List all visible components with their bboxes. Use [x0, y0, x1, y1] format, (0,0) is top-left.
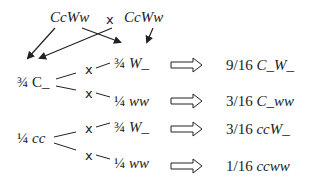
- result-2: 3/16 C_ww: [226, 94, 294, 109]
- implies-arrow-3: [171, 122, 202, 136]
- implies-arrow-1: [171, 58, 202, 72]
- branch-fraction: ¼: [17, 130, 28, 146]
- branch-genotype: C_: [32, 74, 50, 90]
- result-genotype: ccW_: [256, 121, 289, 137]
- result-4: 1/16 ccww: [226, 159, 290, 174]
- implies-arrow-2: [171, 94, 202, 108]
- sub-cross-symbol-1: x: [85, 63, 93, 76]
- sub-cross-symbol-4: x: [85, 149, 93, 162]
- result-ratio: 3/16: [226, 93, 253, 109]
- sub-branch-fraction: ¾: [114, 119, 125, 135]
- implies-arrow-4: [171, 159, 202, 173]
- branch-c-dominant: ¾ C_: [17, 75, 50, 90]
- result-genotype: C_ww: [256, 93, 294, 109]
- sub-branch-1: ¾ W_: [114, 56, 149, 71]
- result-3: 3/16 ccW_: [226, 122, 290, 137]
- sub-branch-4: ¼ ww: [114, 156, 149, 171]
- arrow-right-parent-to-W: [147, 28, 153, 42]
- sub-branch-fraction: ¼: [114, 155, 125, 171]
- sub-branch-genotype: ww: [129, 155, 149, 171]
- sub-branch-genotype: ww: [129, 93, 149, 109]
- result-ratio: 3/16: [226, 121, 253, 137]
- parent-cross-symbol: x: [106, 13, 114, 26]
- sub-branch-genotype: W_: [129, 119, 149, 135]
- result-genotype: ccww: [256, 158, 289, 174]
- dihybrid-cross-diagram: CcWw x CcWw ¾ C_ ¼ cc x x x x ¾ W_ ¼ ww …: [0, 0, 309, 195]
- branch-genotype: cc: [32, 130, 45, 146]
- sub-cross-symbol-3: x: [85, 122, 93, 135]
- arrow-left-parent-to-W: [82, 28, 120, 42]
- branch-c-recessive: ¼ cc: [17, 131, 45, 146]
- result-ratio: 1/16: [226, 158, 253, 174]
- branch-fraction: ¾: [17, 74, 28, 90]
- result-genotype: C_W_: [256, 57, 294, 73]
- sub-branch-fraction: ¼: [114, 93, 125, 109]
- result-ratio: 9/16: [226, 57, 253, 73]
- sub-branch-3: ¾ W_: [114, 120, 149, 135]
- parent-left-genotype: CcWw: [50, 10, 89, 25]
- sub-cross-symbol-2: x: [85, 87, 93, 100]
- parent-right-genotype: CcWw: [124, 10, 163, 25]
- result-1: 9/16 C_W_: [226, 58, 294, 73]
- sub-branch-fraction: ¾: [114, 55, 125, 71]
- sub-branch-2: ¼ ww: [114, 94, 149, 109]
- sub-branch-genotype: W_: [129, 55, 149, 71]
